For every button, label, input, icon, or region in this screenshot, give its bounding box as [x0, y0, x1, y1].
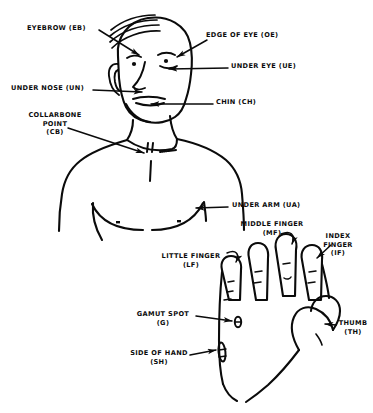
eyebrow-marks: [127, 53, 175, 58]
label-edge-of-eye: EDGE OF EYE (OE): [206, 31, 278, 40]
nose: [133, 62, 145, 89]
label-side-of-hand: SIDE OF HAND(SH): [126, 349, 192, 366]
label-chin: CHIN (CH): [216, 98, 256, 107]
label-gamut-spot: GAMUT SPOT(G): [130, 310, 196, 327]
label-little-finger: LITTLE FINGER(LF): [152, 252, 230, 269]
hair-strokes: [110, 15, 160, 48]
point-markers: [218, 317, 242, 362]
leader-under-arm: [196, 207, 228, 208]
head-outline: [118, 17, 192, 122]
label-under-arm: UNDER ARM (UA): [232, 201, 300, 210]
eyes: [132, 59, 177, 68]
label-collarbone-point: COLLARBONEPOINT(CB): [16, 111, 94, 137]
leader-lines: [68, 30, 336, 355]
label-eyebrow: EYEBROW (EB): [27, 24, 86, 33]
finger-creases: [224, 263, 316, 300]
leader-side-of-hand: [190, 350, 216, 355]
leader-gamut-spot: [196, 316, 232, 321]
diagram-canvas: EYEBROW (EB) EDGE OF EYE (OE) UNDER EYE …: [0, 0, 373, 413]
label-under-eye: UNDER EYE (UE): [231, 62, 296, 71]
neck: [127, 116, 177, 140]
label-middle-finger: MIDDLE FINGER(MF): [229, 220, 315, 237]
label-thumb: THUMB(TH): [334, 319, 372, 336]
leader-eyebrow: [99, 30, 139, 55]
leader-under-nose: [93, 90, 142, 92]
label-under-nose: UNDER NOSE (UN): [11, 84, 84, 93]
leader-under-eye: [169, 68, 228, 69]
chest-lines: [92, 202, 206, 240]
label-index-finger: INDEXFINGER(IF): [310, 232, 366, 258]
